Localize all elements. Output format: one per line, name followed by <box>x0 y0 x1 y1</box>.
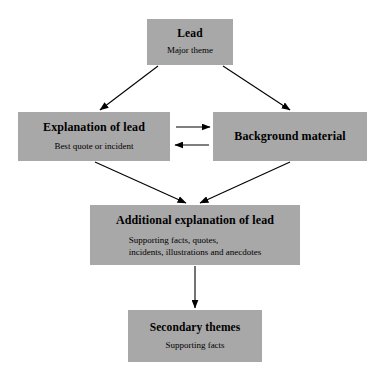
edge-lead-to-background <box>223 66 290 110</box>
node-additional-subtitle-line-2: incidents, illustrations and anecdotes <box>129 246 261 258</box>
node-background-material[interactable]: Background material <box>213 112 367 161</box>
node-secondary-themes-subtitle: Supporting facts <box>165 340 224 351</box>
node-additional-explanation-of-lead-title: Additional explanation of lead <box>116 214 274 228</box>
node-secondary-themes-title: Secondary themes <box>150 321 241 334</box>
node-additional-explanation-of-lead-subtitle: Supporting facts, quotes, incidents, ill… <box>129 234 261 258</box>
edge-explanation-to-additional <box>95 162 186 203</box>
node-explanation-of-lead-subtitle: Best quote or incident <box>54 141 133 152</box>
node-lead[interactable]: Lead Major theme <box>147 19 233 65</box>
node-additional-explanation-of-lead[interactable]: Additional explanation of lead Supportin… <box>90 205 300 265</box>
edge-background-to-additional <box>200 162 290 203</box>
diagram-canvas: Lead Major theme Explanation of lead Bes… <box>0 0 378 371</box>
node-lead-subtitle: Major theme <box>167 45 213 56</box>
node-background-material-title: Background material <box>234 130 345 144</box>
node-explanation-of-lead[interactable]: Explanation of lead Best quote or incide… <box>18 112 170 161</box>
node-explanation-of-lead-title: Explanation of lead <box>43 121 145 135</box>
node-lead-title: Lead <box>177 27 202 40</box>
edge-lead-to-explanation <box>100 66 158 110</box>
node-secondary-themes[interactable]: Secondary themes Supporting facts <box>128 310 262 362</box>
node-additional-subtitle-line-1: Supporting facts, quotes, <box>129 234 261 246</box>
